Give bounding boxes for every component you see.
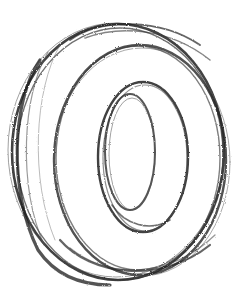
- ring-sketch: [0, 0, 242, 300]
- inner-hole-strokes: [98, 82, 188, 232]
- outer-tread-strokes: [8, 23, 224, 285]
- front-face-strokes: [54, 24, 230, 276]
